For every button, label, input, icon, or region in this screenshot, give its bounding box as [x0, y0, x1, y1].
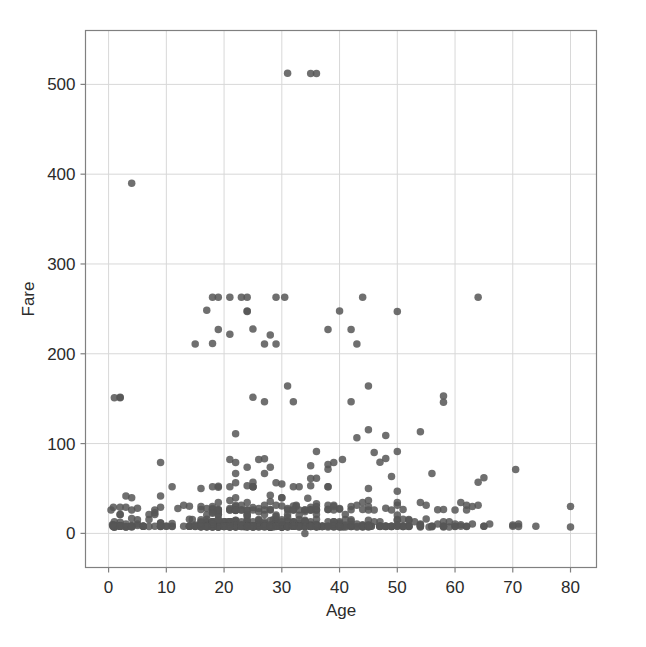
figure-background	[0, 0, 646, 647]
data-point	[365, 523, 373, 531]
data-point	[151, 506, 159, 514]
data-point-outlier	[440, 399, 448, 407]
x-tick-label: 70	[503, 578, 522, 597]
x-tick-label: 80	[561, 578, 580, 597]
data-point	[399, 523, 407, 531]
data-point	[284, 70, 292, 78]
x-tick-label: 40	[330, 578, 349, 597]
data-point	[330, 459, 338, 467]
data-point	[388, 506, 396, 514]
data-point	[203, 306, 211, 314]
data-point	[532, 523, 540, 531]
data-point	[197, 485, 205, 493]
y-tick-label: 200	[47, 345, 75, 364]
data-point	[232, 430, 240, 438]
data-point	[313, 448, 321, 456]
data-point	[474, 501, 482, 509]
data-point	[440, 522, 448, 530]
data-point	[281, 293, 289, 301]
data-point	[209, 510, 217, 518]
x-tick-label: 0	[104, 578, 113, 597]
data-point-outlier	[353, 340, 361, 348]
data-point	[330, 503, 338, 511]
data-point	[290, 506, 298, 514]
data-point-outlier	[313, 70, 321, 78]
data-point-outlier	[191, 340, 199, 348]
plot-canvas: 01020304050607080 0100200300400500 Age F…	[0, 0, 646, 647]
data-point	[353, 502, 361, 510]
data-point	[307, 475, 315, 483]
data-point	[209, 503, 217, 511]
data-point	[370, 449, 378, 457]
x-axis-title: Age	[326, 601, 356, 620]
data-point	[307, 482, 315, 490]
data-point	[267, 492, 275, 500]
x-tick-label: 10	[157, 578, 176, 597]
data-point	[249, 483, 257, 491]
data-point-outlier	[474, 293, 482, 301]
data-point-outlier	[215, 326, 223, 334]
data-point	[232, 459, 240, 467]
data-point-outlier	[394, 308, 402, 316]
data-point	[209, 340, 217, 348]
data-point	[451, 520, 459, 528]
data-point	[307, 523, 315, 531]
data-point-outlier	[261, 340, 269, 348]
data-point	[232, 507, 240, 515]
data-point	[243, 499, 251, 507]
data-point	[290, 523, 298, 531]
data-point-outlier	[116, 394, 124, 402]
x-tick-label: 60	[446, 578, 465, 597]
data-point	[339, 456, 347, 464]
data-point	[428, 523, 436, 531]
data-point	[128, 523, 136, 531]
data-point-outlier	[284, 382, 292, 390]
data-point	[209, 483, 217, 491]
data-point	[249, 394, 257, 402]
data-point	[290, 398, 298, 406]
data-point	[116, 511, 124, 519]
y-tick-label: 400	[47, 165, 75, 184]
data-point-outlier	[128, 179, 136, 187]
scatter-plot-figure: 01020304050607080 0100200300400500 Age F…	[0, 0, 646, 647]
x-tick-label: 20	[215, 578, 234, 597]
data-point	[116, 523, 124, 531]
data-point	[567, 523, 575, 531]
data-point	[278, 494, 286, 502]
data-point	[512, 466, 520, 474]
data-point	[261, 455, 269, 463]
data-point	[272, 522, 280, 530]
data-point	[272, 293, 280, 301]
data-point	[463, 502, 471, 510]
data-point	[365, 426, 373, 434]
data-point	[226, 523, 234, 531]
data-point	[304, 495, 312, 503]
data-point	[107, 506, 115, 514]
data-point	[474, 479, 482, 487]
data-point	[301, 530, 309, 538]
data-point	[238, 518, 246, 526]
data-point	[295, 483, 303, 491]
data-point	[180, 502, 188, 510]
data-point	[110, 523, 118, 531]
data-point-outlier	[567, 503, 575, 511]
data-point	[394, 488, 402, 496]
data-point-outlier	[365, 382, 373, 390]
data-point	[255, 508, 263, 516]
data-point	[168, 483, 176, 491]
data-point	[451, 506, 459, 514]
data-point	[272, 513, 280, 521]
data-point	[394, 448, 402, 456]
data-point-outlier	[243, 308, 251, 316]
data-point-outlier	[267, 331, 275, 339]
data-point	[197, 523, 205, 531]
data-point	[157, 523, 165, 531]
x-tick-label: 50	[388, 578, 407, 597]
data-point	[261, 470, 269, 478]
data-point	[394, 501, 402, 509]
data-point	[307, 462, 315, 470]
y-tick-label: 0	[66, 524, 75, 543]
data-point	[267, 464, 275, 472]
y-tick-label: 100	[47, 435, 75, 454]
y-tick-label: 500	[47, 75, 75, 94]
